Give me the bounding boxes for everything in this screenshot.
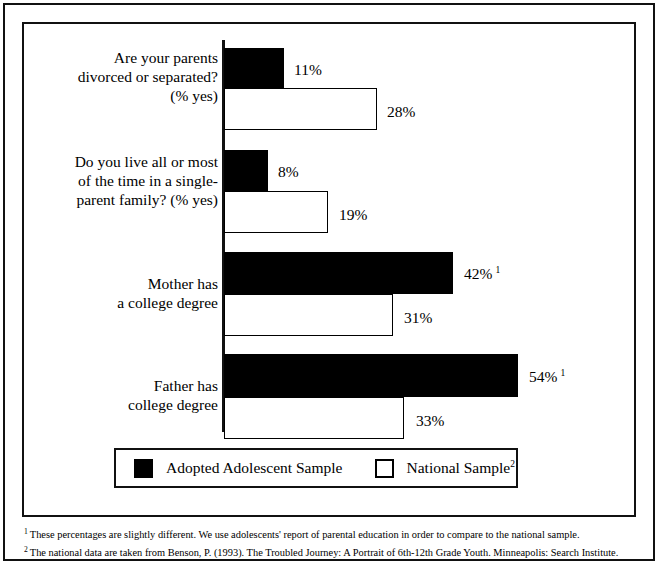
- footnote-item: 1These percentages are slightly differen…: [24, 525, 634, 543]
- legend-entry-adopted[interactable]: Adopted Adolescent Sample: [134, 459, 343, 478]
- bar-value-adopted: 11%: [294, 62, 322, 78]
- category-label: Father has college degree: [32, 376, 218, 414]
- bar-adopted[interactable]: [224, 48, 284, 88]
- footnote-mark: 1: [24, 527, 28, 536]
- bar-value-adopted: 8%: [278, 164, 299, 180]
- footnote-mark: 2: [510, 459, 515, 469]
- bar-group: Do you live all or most of the time in a…: [24, 146, 638, 246]
- category-label-line: a college degree: [32, 293, 218, 312]
- bar-value-adopted: 54%1: [529, 369, 565, 385]
- legend-entry-national[interactable]: National Sample2: [375, 459, 516, 478]
- legend-swatch-filled-icon: [134, 459, 153, 478]
- footnote-text: The national data are taken from Benson,…: [30, 547, 619, 558]
- bar-group: Are your parents divorced or separated? …: [24, 44, 638, 144]
- bar-national[interactable]: [224, 294, 393, 336]
- bar-group: Mother has a college degree 42%1 31%: [24, 248, 638, 348]
- legend-label-adopted: Adopted Adolescent Sample: [166, 459, 343, 477]
- bar-value-adopted: 42%1: [464, 266, 500, 282]
- footnote-text: These percentages are slightly different…: [30, 529, 580, 540]
- category-label: Mother has a college degree: [32, 274, 218, 312]
- category-label-line: Mother has: [32, 274, 218, 293]
- bar-adopted[interactable]: [224, 252, 453, 294]
- footnote-mark: 1: [560, 368, 565, 378]
- category-label-line: Father has: [32, 376, 218, 395]
- chart-container: Are your parents divorced or separated? …: [22, 22, 636, 517]
- bar-adopted[interactable]: [224, 354, 518, 397]
- legend-swatch-outlined-icon: [375, 459, 394, 478]
- category-label-line: Do you live all or most: [32, 152, 218, 171]
- bar-value-national: 33%: [416, 413, 444, 429]
- bar-national[interactable]: [224, 88, 377, 130]
- bar-value-national: 31%: [404, 310, 432, 326]
- bar-adopted[interactable]: [224, 150, 268, 191]
- category-label-line: (% yes): [32, 86, 218, 105]
- category-label-line: divorced or separated?: [32, 67, 218, 86]
- footnote-item: 2The national data are taken from Benson…: [24, 543, 634, 561]
- footnote-mark: 1: [495, 265, 500, 275]
- category-label-line: Are your parents: [32, 48, 218, 67]
- category-label: Are your parents divorced or separated? …: [32, 48, 218, 105]
- bar-national[interactable]: [224, 397, 404, 439]
- chart-legend: Adopted Adolescent Sample National Sampl…: [114, 448, 518, 488]
- bar-national[interactable]: [224, 191, 328, 233]
- category-label-line: of the time in a single-: [32, 171, 218, 190]
- footnote-mark: 2: [24, 545, 28, 554]
- bar-value-national: 28%: [387, 104, 415, 120]
- category-label-line: parent family? (% yes): [32, 190, 218, 209]
- bar-group: Father has college degree 54%1 33%: [24, 350, 638, 450]
- category-label: Do you live all or most of the time in a…: [32, 152, 218, 209]
- legend-label-national: National Sample2: [407, 459, 516, 477]
- footnotes: 1These percentages are slightly differen…: [24, 525, 634, 561]
- plot-area: Are your parents divorced or separated? …: [24, 24, 638, 444]
- category-label-line: college degree: [32, 395, 218, 414]
- bar-value-national: 19%: [339, 207, 367, 223]
